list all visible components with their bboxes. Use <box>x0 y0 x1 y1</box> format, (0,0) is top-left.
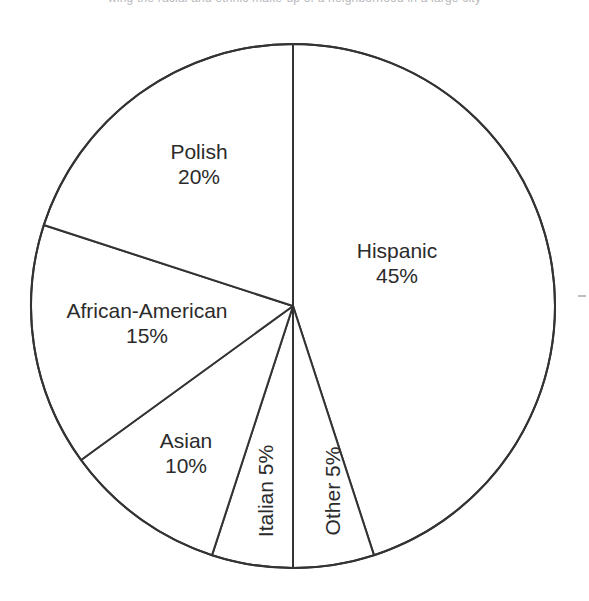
slice-label-african-american: African-American 15% <box>47 298 247 348</box>
slice-label-asian: Asian 10% <box>126 428 246 478</box>
slice-label-african-american-percent: 15% <box>47 323 247 348</box>
slice-label-polish: Polish 20% <box>129 139 269 189</box>
slice-label-other-name: Other <box>321 483 344 536</box>
slice-label-asian-percent: 10% <box>126 453 246 478</box>
slice-label-polish-percent: 20% <box>129 164 269 189</box>
slice-label-other: Other 5% <box>320 431 346 551</box>
pie-chart-page: wing the racial and ethnic make-up of a … <box>0 0 589 601</box>
slice-label-italian-percent: 5% <box>254 445 277 475</box>
slice-label-hispanic-name: Hispanic <box>317 238 477 263</box>
slice-label-polish-name: Polish <box>129 139 269 164</box>
slice-label-asian-name: Asian <box>126 428 246 453</box>
slice-label-african-american-name: African-American <box>47 298 247 323</box>
slice-label-italian-name: Italian <box>254 481 277 537</box>
slice-label-italian: Italian 5% <box>253 431 279 551</box>
slice-label-hispanic-percent: 45% <box>317 263 477 288</box>
slice-label-other-percent: 5% <box>321 447 344 477</box>
slice-label-hispanic: Hispanic 45% <box>317 238 477 288</box>
